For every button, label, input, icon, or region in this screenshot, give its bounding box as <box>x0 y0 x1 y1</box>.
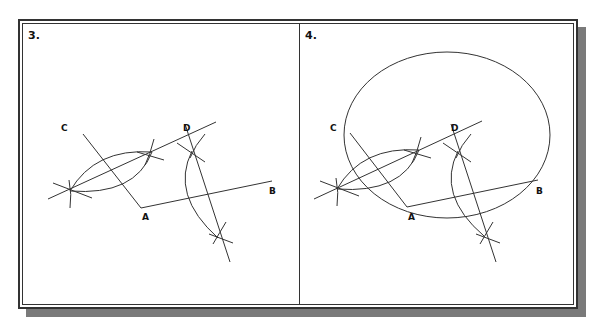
arc-ab-left <box>185 151 218 238</box>
arc-tick-left <box>69 180 71 208</box>
bisector-ab-4 <box>451 124 496 262</box>
arc-ca-lower <box>70 152 152 192</box>
arc-tick-left-4 <box>336 178 338 206</box>
arc-tick-left-2 <box>53 183 92 198</box>
arc-tick-d-1-4 <box>443 143 471 162</box>
bisector-ca <box>48 122 216 199</box>
arc-tick-low-2-4 <box>476 234 500 243</box>
point-label-b-3: B <box>269 186 276 196</box>
segment-ab-4 <box>407 180 538 207</box>
arc-tick-low-1 <box>213 222 226 244</box>
point-label-d-4: D <box>451 123 458 133</box>
point-label-a-3: A <box>142 212 149 222</box>
point-label-d-3: D <box>183 123 190 133</box>
panel-3-construction <box>48 122 272 262</box>
point-label-c-4: C <box>330 123 337 133</box>
segment-ca <box>83 134 141 208</box>
point-label-a-4: A <box>408 212 415 222</box>
panel-4-construction <box>314 52 550 262</box>
geometry-drawing: C D A B C D A B <box>0 0 599 330</box>
circumscribed-circle <box>344 52 550 218</box>
arc-tick-low-1-4 <box>480 222 493 244</box>
point-label-b-4: B <box>536 186 543 196</box>
arc-tick-d-1 <box>177 143 205 162</box>
bisector-ab <box>185 124 230 262</box>
arc-ab-left-4 <box>451 151 484 236</box>
segment-ab <box>141 181 272 208</box>
point-label-c-3: C <box>61 123 68 133</box>
